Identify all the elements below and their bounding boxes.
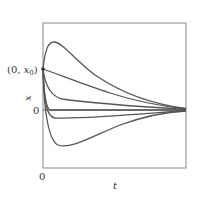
y-zero-tick-label: 0 bbox=[33, 105, 39, 116]
solution-curve-3 bbox=[43, 69, 186, 110]
solution-curve-1 bbox=[43, 42, 186, 109]
x-zero-tick-label: 0 bbox=[39, 171, 45, 182]
initial-point-label: (0, x0) bbox=[7, 64, 38, 77]
solution-curve-2 bbox=[43, 69, 186, 109]
y-axis-label: x bbox=[22, 95, 33, 101]
initial-point-marker bbox=[41, 67, 45, 71]
chart: (0, x0) x 0 0 t bbox=[0, 0, 197, 197]
x-axis-label: t bbox=[113, 180, 118, 191]
